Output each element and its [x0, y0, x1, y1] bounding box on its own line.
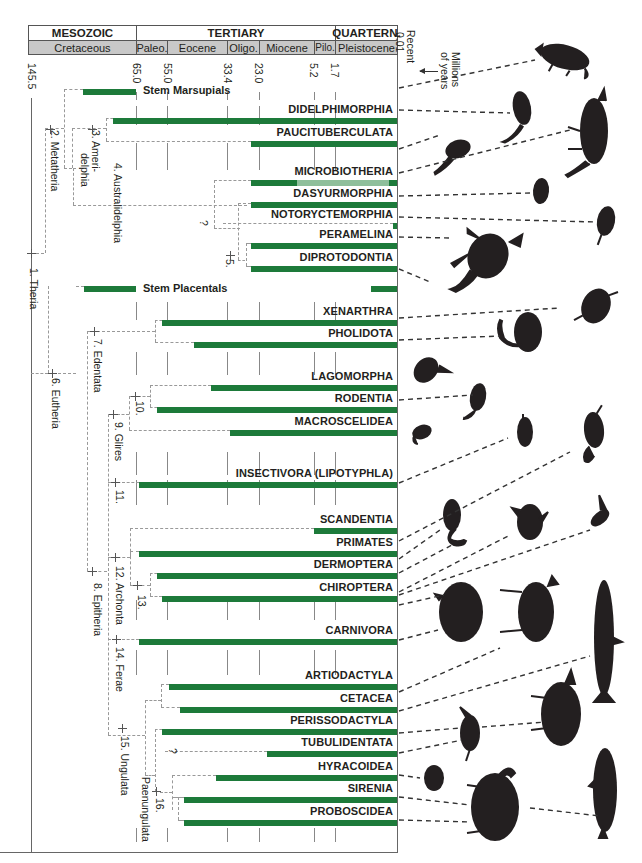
taxon-bar — [211, 385, 397, 391]
taxon-label: ARTIODACTYLA — [305, 669, 393, 681]
branch-line — [87, 331, 88, 571]
grid-tick — [227, 452, 228, 475]
taxon-label: MICROBIOTHERIA — [294, 165, 393, 177]
grid-tick — [136, 480, 137, 505]
grid-tick — [227, 600, 228, 620]
uncertain-mark-tubulidentata: ? — [167, 748, 179, 754]
uncertain-mark-notoryctes: ? — [198, 220, 210, 226]
monkey-icon — [443, 499, 466, 546]
branch-line — [172, 775, 173, 810]
node-2-metatheria: 2. Metatheria — [49, 130, 61, 191]
grid-tick — [136, 828, 137, 842]
tick-5-2: 5.2 — [308, 63, 320, 78]
era-mesozoic: MESOZOIC — [28, 25, 137, 41]
node-4-australidelphia: 4. Australidelphia — [112, 163, 124, 243]
branch-line — [155, 320, 156, 342]
node-mark-16 — [152, 791, 161, 792]
connector-line — [399, 452, 570, 541]
grid-tick — [314, 828, 315, 842]
stem-placentals-bar — [84, 286, 136, 292]
node-mark-3 — [88, 129, 97, 130]
branch-line — [214, 180, 215, 228]
branch-line — [145, 700, 161, 701]
branch-line — [130, 528, 314, 529]
node-mark-5 — [226, 255, 235, 256]
taxon-label: PROBOSCIDEA — [310, 805, 393, 817]
taxon-bar — [184, 820, 397, 826]
connector-line — [399, 438, 508, 483]
connector-line — [399, 535, 510, 592]
taxon-bar — [162, 596, 397, 602]
branch-line — [130, 551, 131, 585]
taxon-bar — [113, 118, 397, 124]
branch-line — [238, 203, 239, 260]
node-mark-15 — [118, 728, 127, 729]
branch-line — [48, 286, 49, 373]
branch-line — [106, 118, 107, 141]
era-label: TERTIARY — [207, 27, 264, 39]
grid-tick — [136, 352, 137, 375]
node-8-epitheria: 8. Epitheria — [92, 583, 104, 636]
branch-line — [160, 792, 172, 793]
connector-line — [399, 630, 438, 640]
theria-trunk — [31, 98, 32, 853]
arrow-left-icon — [420, 71, 438, 72]
connector-line — [399, 820, 470, 822]
grid-tick — [335, 828, 336, 842]
camel-icon — [500, 576, 558, 642]
connector-line — [399, 130, 570, 173]
connector-line — [399, 740, 462, 753]
period-label: Paleo. — [136, 42, 167, 54]
period-paleocene: Paleo. — [136, 40, 168, 55]
rabbit-icon — [409, 352, 451, 393]
grid-tick — [167, 650, 168, 675]
node-paenungulata: Paenungulata — [140, 777, 152, 842]
grid-tick — [259, 650, 260, 675]
grid-tick — [259, 143, 260, 170]
taxon-label: LAGOMORPHA — [311, 370, 393, 382]
connector-line — [399, 728, 460, 733]
branch-line — [72, 128, 73, 168]
node-5: 5. — [224, 259, 236, 268]
period-eocene: Eocene — [167, 40, 228, 55]
connector-line — [399, 775, 420, 778]
branch-line — [161, 707, 180, 708]
taxon-label: CETACEA — [340, 692, 393, 704]
taxon-bar — [393, 223, 397, 229]
branch-line — [246, 243, 251, 244]
node-12-archonta: 12. Archonta — [114, 566, 126, 625]
tick-55-0: 55.0 — [162, 63, 174, 83]
taxon-label: PERISSODACTYLA — [290, 714, 393, 726]
node-mark-12 — [111, 557, 120, 558]
taxon-bar — [139, 639, 397, 645]
taxon-label: PAUCITUBERCULATA — [277, 126, 393, 138]
branch-line — [155, 320, 162, 321]
grid-tick — [136, 302, 137, 320]
tick-65-0: 65.0 — [131, 63, 143, 83]
connector-line — [399, 217, 596, 222]
branch-line — [155, 729, 162, 730]
connector-line — [399, 308, 560, 318]
armadillo-icon — [574, 280, 618, 332]
branch-line — [73, 168, 74, 205]
node-mark-6 — [48, 373, 57, 374]
shrew-opossum-icon — [494, 90, 536, 143]
grid-tick — [227, 650, 228, 675]
frame-right — [397, 55, 398, 853]
connector-line — [482, 722, 545, 727]
node-11: 11. — [114, 490, 126, 504]
taxon-bar — [251, 180, 297, 186]
node-6-eutheria: 6. Eutheria — [50, 378, 62, 429]
branch-line — [246, 243, 247, 266]
taxon-bar — [157, 407, 397, 413]
connector-line — [399, 530, 440, 559]
tick-145-5: 145.5 — [26, 63, 38, 89]
era-quaternary: QUARTERN. — [335, 25, 398, 41]
taxon-label: XENARTHRA — [323, 305, 393, 317]
period-label: Cretaceous — [54, 42, 110, 54]
era-label: MESOZOIC — [52, 27, 113, 39]
taxon-bar — [251, 243, 397, 249]
node-mark-2 — [46, 129, 55, 130]
node-mark-8 — [88, 571, 97, 572]
taxon-label: CARNIVORA — [325, 624, 393, 636]
